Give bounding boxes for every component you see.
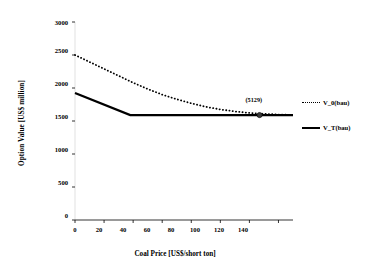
y-tick-marks [72,22,75,220]
annotation-marker [257,112,262,117]
chart-figure: Option Value [US$ million] 3000 2500 200… [0,0,371,273]
legend-swatch-solid-icon [302,127,320,129]
plot-area [0,0,371,273]
legend-item-v0[interactable]: V_0(bau) [302,99,349,106]
legend-label: V_T(bau) [323,124,350,131]
axes [72,22,293,223]
legend-swatch-dotted-icon [302,102,320,103]
legend-label: V_0(bau) [323,99,349,106]
annotation-label: (5129) [246,96,263,103]
legend-item-vt[interactable]: V_T(bau) [302,124,350,131]
x-tick-marks [75,220,278,223]
